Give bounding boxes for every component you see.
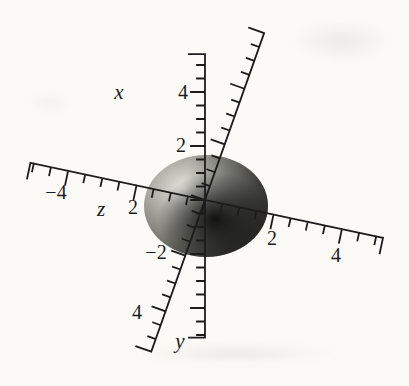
tick-label-z: 2 bbox=[128, 196, 138, 218]
plot-canvas: x42−2y4z2−424 bbox=[0, 0, 409, 386]
axis-letter-z: z bbox=[96, 197, 105, 221]
tick-label-x: −2 bbox=[145, 241, 166, 263]
tick-label-x: 4 bbox=[178, 81, 188, 103]
tick-label-z: 4 bbox=[331, 244, 341, 266]
axis-letter-y: y bbox=[173, 329, 185, 353]
figure-page: Grayscale shaded sphere of radius 2 cent… bbox=[0, 0, 409, 386]
tick-label-z: 2 bbox=[267, 227, 277, 249]
tick-label-z: −4 bbox=[45, 181, 66, 203]
axis-letter-x: x bbox=[113, 80, 124, 104]
tick-label-x: 2 bbox=[176, 134, 186, 156]
tick-label-y: 4 bbox=[132, 301, 142, 323]
